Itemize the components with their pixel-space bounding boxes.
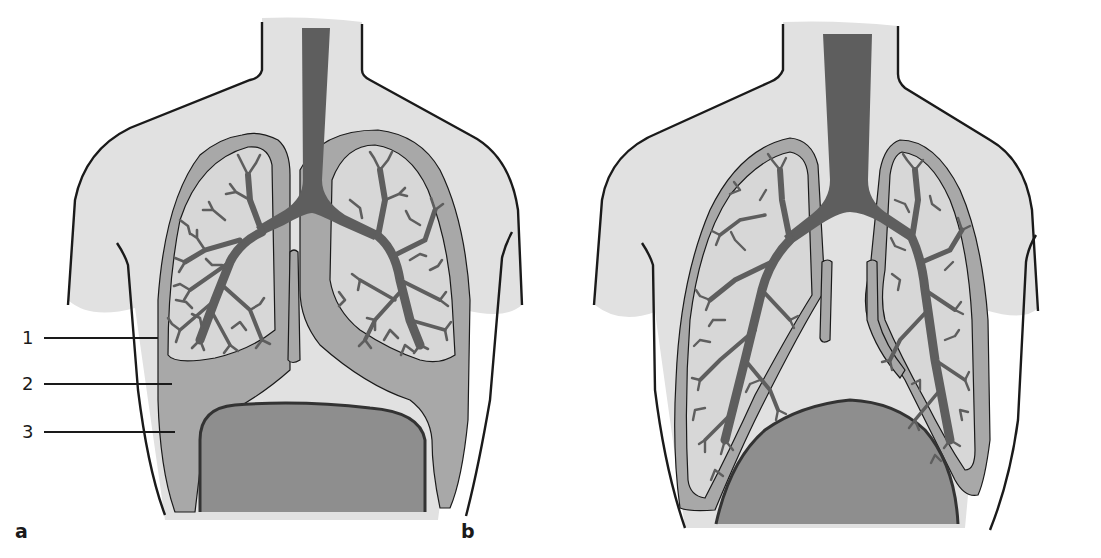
callout-number-3: 3 xyxy=(22,421,33,442)
anatomy-diagram xyxy=(0,0,1101,558)
panel-a xyxy=(44,18,522,521)
panel-label-b: b xyxy=(461,520,475,542)
panel-b xyxy=(594,22,1038,531)
panel-label-a: a xyxy=(15,520,28,542)
callout-number-2: 2 xyxy=(22,373,33,394)
diaphragm-a xyxy=(200,403,425,512)
callout-number-1: 1 xyxy=(22,327,33,348)
